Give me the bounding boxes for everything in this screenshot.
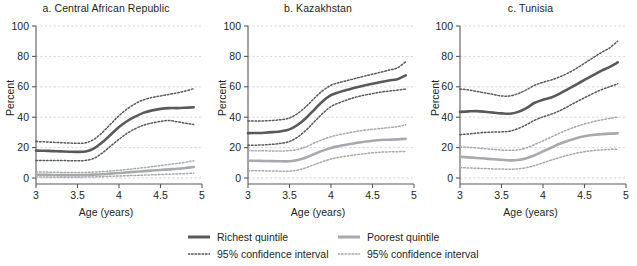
x-tick-label-4: 4 [116,189,122,201]
series-line-richest-quintile [248,75,406,133]
chart-panel-b: b. Kazakhstan Percent 02040608010033.544… [212,0,424,228]
y-tick-label-0: 0 [235,172,241,184]
plot-svg: 02040608010033.544.55 [0,16,212,206]
y-tick-label-0: 0 [447,172,453,184]
y-tick-label-80: 80 [441,50,453,62]
x-tick-label-3: 3 [33,189,39,201]
legend-item-label: 95% confidence interval [367,248,479,260]
legend-solid-line-icon [338,231,360,243]
y-tick-label-20: 20 [17,141,29,153]
x-axis-label-a: Age (years) [0,206,212,218]
series-line-richest-quintile-95-ci-lower [36,121,194,161]
x-axis-label-c: Age (years) [424,206,637,218]
x-tick-label-4: 4 [328,189,334,201]
panel-title-a: a. Central African Republic [0,2,212,14]
x-tick-label-4.5: 4.5 [153,189,168,201]
y-tick-label-40: 40 [229,111,241,123]
series-line-poorest-quintile-95-ci-upper [36,161,194,173]
series-line-richest-quintile [36,107,194,152]
y-tick-label-60: 60 [229,80,241,92]
x-tick-label-3.5: 3.5 [282,189,297,201]
series-line-richest-quintile [460,62,618,113]
y-tick-label-100: 100 [223,20,241,32]
series-line-richest-quintile-95-ci-upper [248,62,406,121]
x-tick-label-4: 4 [540,189,546,201]
y-tick-label-60: 60 [441,80,453,92]
x-axis-label-b: Age (years) [212,206,424,218]
legend-column-poorest: Poorest quintile95% confidence interval [338,228,479,262]
legend-solid-line-icon [188,231,210,243]
x-tick-label-5: 5 [411,189,417,201]
x-tick-label-4.5: 4.5 [577,189,592,201]
legend-dotted-line-icon [338,248,360,260]
legend-item[interactable]: 95% confidence interval [338,245,479,262]
legend-item[interactable]: Poorest quintile [338,228,479,245]
chart-panel-a: a. Central African Republic Percent 0204… [0,0,212,228]
plot-svg: 02040608010033.544.55 [424,16,636,206]
x-tick-label-3.5: 3.5 [70,189,85,201]
y-tick-label-20: 20 [229,141,241,153]
y-tick-label-100: 100 [435,20,453,32]
figure-panels-container: a. Central African Republic Percent 0204… [0,0,637,266]
y-tick-label-100: 100 [11,20,29,32]
series-line-richest-quintile-95-ci-upper [36,89,194,144]
x-tick-label-5: 5 [199,189,205,201]
y-tick-label-40: 40 [17,111,29,123]
x-tick-label-3.5: 3.5 [494,189,509,201]
y-tick-label-40: 40 [441,111,453,123]
y-tick-label-0: 0 [23,172,29,184]
series-line-poorest-quintile-95-ci-upper [248,125,406,151]
plot-svg: 02040608010033.544.55 [212,16,424,206]
panel-title-b: b. Kazakhstan [212,2,424,14]
panel-title-c: c. Tunisia [424,2,637,14]
legend-item[interactable]: Richest quintile [188,228,329,245]
legend-column-richest: Richest quintile95% confidence interval [188,228,329,262]
legend-item-label: 95% confidence interval [217,248,329,260]
y-tick-label-20: 20 [441,141,453,153]
series-line-poorest-quintile [248,139,406,162]
series-line-richest-quintile-95-ci-lower [460,84,618,135]
y-tick-label-80: 80 [17,50,29,62]
x-tick-label-3: 3 [457,189,463,201]
series-line-richest-quintile-95-ci-upper [460,41,618,96]
x-tick-label-4.5: 4.5 [365,189,380,201]
legend-dotted-line-icon [188,248,210,260]
y-tick-label-80: 80 [229,50,241,62]
x-tick-label-3: 3 [245,189,251,201]
x-tick-label-5: 5 [623,189,629,201]
chart-legend: Richest quintile95% confidence interval … [0,228,637,266]
legend-item-label: Richest quintile [217,231,288,243]
chart-panel-c: c. Tunisia Percent 02040608010033.544.55… [424,0,637,228]
legend-item-label: Poorest quintile [367,231,439,243]
series-line-poorest-quintile [460,133,618,160]
legend-item[interactable]: 95% confidence interval [188,245,329,262]
y-tick-label-60: 60 [17,80,29,92]
